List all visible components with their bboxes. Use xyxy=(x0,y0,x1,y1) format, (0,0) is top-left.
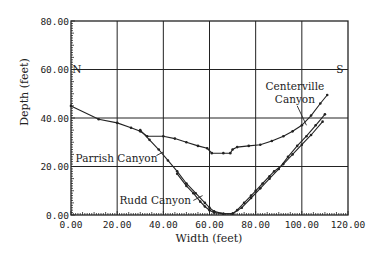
x-tick-label: 60.00 xyxy=(195,219,224,230)
y-tick-label: 20.00 xyxy=(40,161,69,172)
annotations: NSCentervilleCanyonParrish CanyonRudd Ca… xyxy=(72,63,343,206)
y-tick-labels: 0.0020.0040.0060.0080.00 xyxy=(40,16,69,221)
y-axis-title: Depth (feet) xyxy=(18,58,31,125)
annotation-centerville: Centerville xyxy=(266,80,325,92)
x-tick-label: 120.00 xyxy=(331,219,366,230)
x-tick-label: 100.00 xyxy=(285,219,320,230)
y-tick-label: 0.00 xyxy=(46,210,69,221)
plot-grid xyxy=(71,21,348,215)
x-axis-title: Width (feet) xyxy=(176,232,243,245)
y-tick-label: 80.00 xyxy=(40,16,69,27)
y-tick-label: 40.00 xyxy=(40,113,69,124)
annotation-s: S xyxy=(336,63,343,75)
x-tick-label: 0.00 xyxy=(60,219,83,230)
chart: 0.0020.0040.0060.0080.00100.00120.00 0.0… xyxy=(0,0,389,259)
y-tick-label: 60.00 xyxy=(40,64,69,75)
x-tick-label: 80.00 xyxy=(241,219,270,230)
annotation-n: N xyxy=(72,63,81,75)
annotation-canyon: Canyon xyxy=(275,93,315,105)
x-tick-labels: 0.0020.0040.0060.0080.00100.00120.00 xyxy=(60,219,366,230)
annotation-rudd-canyon: Rudd Canyon xyxy=(119,194,191,206)
annotation-parrish-canyon: Parrish Canyon xyxy=(76,152,158,164)
x-tick-label: 40.00 xyxy=(149,219,178,230)
x-tick-label: 20.00 xyxy=(103,219,132,230)
